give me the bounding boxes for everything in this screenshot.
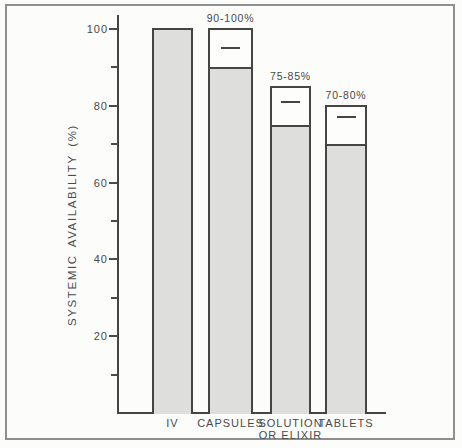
bar-solution-or-elixir	[270, 86, 311, 414]
y-minor-tick-10	[111, 374, 117, 376]
y-minor-tick-30	[111, 297, 117, 299]
figure: SYSTEMIC AVAILABILITY (%) 2040608010090-…	[0, 0, 462, 448]
y-minor-tick-50	[111, 220, 117, 222]
y-minor-tick-70	[111, 143, 117, 145]
mean-dash-capsules	[221, 47, 240, 49]
y-major-tick-20	[109, 335, 117, 337]
range-label-tablets: 70-80%	[301, 89, 391, 102]
bar-shaded-region	[327, 144, 365, 414]
y-tick-label-100: 100	[70, 22, 108, 36]
bar-capsules	[208, 28, 253, 414]
y-axis-line	[117, 15, 119, 414]
bar-shaded-region	[210, 67, 251, 414]
x-category-label-tablets: TABLETS	[301, 417, 391, 429]
y-major-tick-80	[109, 105, 117, 107]
range-label-capsules: 90-100%	[186, 12, 276, 25]
y-major-tick-60	[109, 182, 117, 184]
bar-shaded-region	[272, 125, 309, 414]
y-tick-label-80: 80	[70, 99, 108, 113]
mean-dash-tablets	[337, 116, 356, 118]
mean-dash-solution-or-elixir	[281, 101, 300, 103]
range-label-solution-or-elixir: 75-85%	[246, 70, 336, 83]
y-major-tick-40	[109, 258, 117, 260]
x-category-label-line: OR ELIXIR	[246, 429, 336, 441]
y-tick-label-40: 40	[70, 252, 108, 266]
y-minor-tick-90	[111, 66, 117, 68]
bar-iv	[152, 28, 193, 414]
x-category-label-line: TABLETS	[301, 417, 391, 429]
y-tick-label-60: 60	[70, 176, 108, 190]
bar-tablets	[325, 105, 367, 414]
bar-shaded-region	[154, 30, 191, 414]
y-major-tick-100	[109, 28, 117, 30]
y-tick-label-20: 20	[70, 329, 108, 343]
